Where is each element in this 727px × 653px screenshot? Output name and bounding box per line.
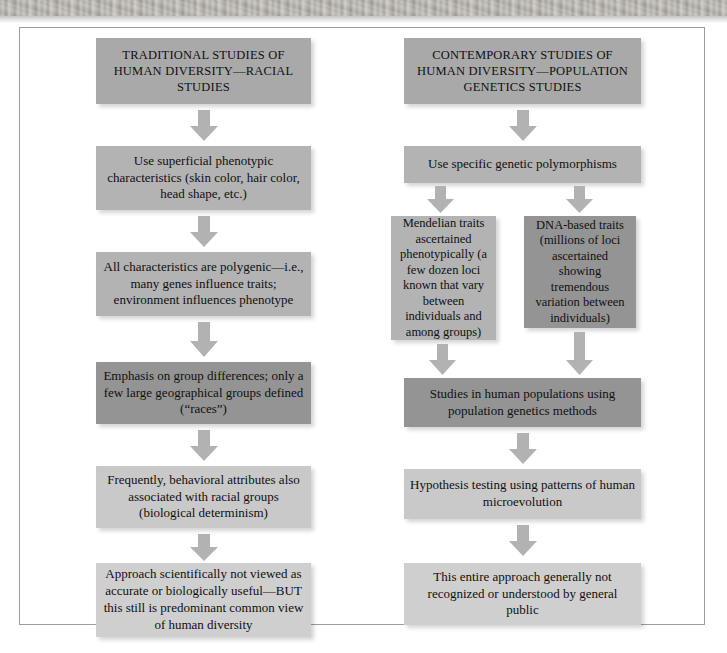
arrow-left-step2-to-step3	[186, 322, 222, 358]
left-step-2-text: All characteristics are polygenic—i.e., …	[102, 259, 305, 310]
right-step-1-box: Use specific genetic polymorphisms	[404, 146, 641, 183]
right-branch-mendelian-box: Mendelian traits ascertained phenotypica…	[391, 216, 496, 340]
arrow-right-header-to-step1	[505, 110, 541, 142]
left-step-1-box: Use superficial phenotypic characteristi…	[96, 146, 311, 210]
right-step-1-text: Use specific genetic polymorphisms	[410, 156, 635, 173]
left-step-1-text: Use superficial phenotypic characteristi…	[102, 153, 305, 204]
right-column-header-text: CONTEMPORARY STUDIES OF HUMAN DIVERSITY—…	[410, 47, 635, 96]
right-branch-dna-box: DNA-based traits (millions of loci ascer…	[524, 216, 636, 328]
left-step-3-box: Emphasis on group differences; only a fe…	[96, 362, 311, 424]
right-step-2-box: Studies in human populations using popul…	[404, 378, 641, 427]
right-step-3-box: Hypothesis testing using patterns of hum…	[404, 469, 641, 519]
right-step-2-text: Studies in human populations using popul…	[410, 386, 635, 420]
arrow-right-step1-to-mendelian	[425, 186, 457, 214]
left-step-2-box: All characteristics are polygenic—i.e., …	[96, 252, 311, 316]
left-column-header-text: TRADITIONAL STUDIES OF HUMAN DIVERSITY—R…	[102, 47, 305, 96]
left-step-5-text: Approach scientifically not viewed as ac…	[102, 566, 305, 634]
arrow-studies-to-hypothesis	[505, 433, 541, 465]
flowchart-canvas: TRADITIONAL STUDIES OF HUMAN DIVERSITY—R…	[0, 0, 727, 653]
left-column-header-box: TRADITIONAL STUDIES OF HUMAN DIVERSITY—R…	[96, 38, 311, 104]
right-branch-dna-text: DNA-based traits (millions of loci ascer…	[530, 218, 630, 327]
right-step-4-box: This entire approach generally not recog…	[404, 563, 641, 625]
arrow-left-step4-to-step5	[186, 534, 222, 562]
right-branch-mendelian-text: Mendelian traits ascertained phenotypica…	[397, 216, 490, 340]
arrow-mendelian-to-studies	[427, 344, 459, 376]
arrow-left-header-to-step1	[186, 110, 222, 142]
left-step-4-box: Frequently, behavioral attributes also a…	[96, 466, 311, 528]
right-column-header-box: CONTEMPORARY STUDIES OF HUMAN DIVERSITY—…	[404, 38, 641, 104]
arrow-right-step1-to-dna	[564, 186, 596, 214]
left-step-4-text: Frequently, behavioral attributes also a…	[102, 472, 305, 523]
left-step-3-text: Emphasis on group differences; only a fe…	[102, 368, 305, 419]
arrow-left-step1-to-step2	[186, 216, 222, 248]
left-step-5-box: Approach scientifically not viewed as ac…	[96, 563, 311, 637]
arrow-left-step3-to-step4	[186, 430, 222, 462]
arrow-dna-to-studies	[564, 332, 596, 376]
right-step-4-text: This entire approach generally not recog…	[410, 569, 635, 620]
right-step-3-text: Hypothesis testing using patterns of hum…	[410, 477, 635, 511]
arrow-hypothesis-to-public	[505, 525, 541, 557]
